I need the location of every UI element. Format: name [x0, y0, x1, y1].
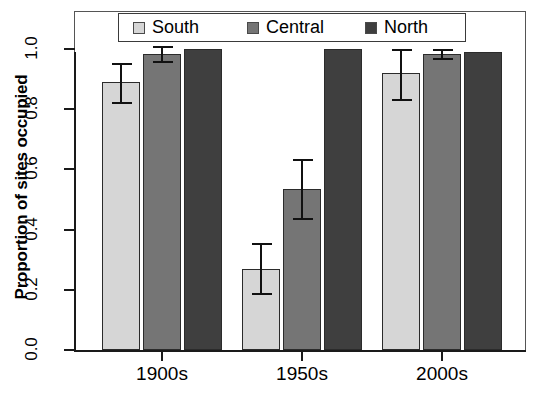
y-tick-label: 0.6: [22, 138, 42, 198]
x-tick-mark: [301, 351, 303, 361]
y-tick-label: 0.4: [22, 199, 42, 259]
error-bar-line: [301, 159, 303, 218]
y-tick-label: 0.2: [22, 259, 42, 319]
plot-area: [74, 11, 526, 351]
legend-label: Central: [266, 17, 324, 38]
y-tick-label: 0.8: [22, 78, 42, 138]
error-bar-line: [260, 243, 262, 293]
bar-south-1900s: [102, 82, 140, 350]
error-bar-cap-lower: [153, 61, 173, 63]
error-bar-line: [161, 46, 163, 61]
x-tick-label: 2000s: [387, 363, 497, 385]
bar-central-1900s: [143, 54, 181, 350]
error-bar-cap-lower: [293, 218, 313, 220]
legend-entry-north[interactable]: North: [365, 14, 428, 41]
legend-label: South: [152, 17, 199, 38]
error-bar-cap-upper: [392, 49, 412, 51]
chart-legend: SouthCentralNorth: [118, 13, 466, 42]
x-tick-mark: [161, 351, 163, 361]
y-tick-label: 0.0: [22, 319, 42, 379]
error-bar-line: [400, 49, 402, 99]
bar-north-1950s: [324, 49, 362, 350]
x-tick-label: 1900s: [107, 363, 217, 385]
error-bar-cap-lower: [433, 58, 453, 60]
error-bar-cap-upper: [112, 63, 132, 65]
legend-swatch-icon: [133, 22, 145, 34]
error-bar-cap-upper: [153, 46, 173, 48]
legend-swatch-icon: [247, 22, 259, 34]
legend-swatch-icon: [365, 22, 377, 34]
bar-north-1900s: [184, 49, 222, 350]
bar-south-2000s: [382, 73, 420, 350]
error-bar-cap-upper: [252, 243, 272, 245]
bar-chart-figure: Proportion of sites occupied 0.00.20.40.…: [0, 0, 536, 395]
y-tick-label: 1.0: [22, 18, 42, 78]
bar-north-2000s: [464, 52, 502, 350]
error-bar-cap-lower: [392, 99, 412, 101]
error-bar-cap-upper: [293, 159, 313, 161]
legend-label: North: [384, 17, 428, 38]
error-bar-cap-lower: [112, 102, 132, 104]
x-tick-mark: [441, 351, 443, 361]
legend-entry-central[interactable]: Central: [247, 14, 324, 41]
x-tick-label: 1950s: [247, 363, 357, 385]
error-bar-line: [120, 63, 122, 102]
bar-central-2000s: [423, 54, 461, 350]
error-bar-cap-upper: [433, 49, 453, 51]
error-bar-cap-lower: [252, 293, 272, 295]
legend-entry-south[interactable]: South: [133, 14, 199, 41]
